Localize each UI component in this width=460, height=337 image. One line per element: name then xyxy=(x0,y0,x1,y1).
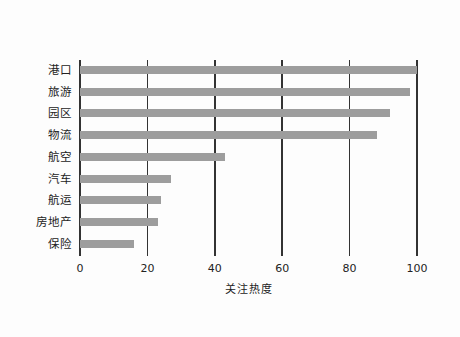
y-axis-label: 港口 xyxy=(20,63,72,77)
x-tick-label: 0 xyxy=(60,262,100,275)
y-axis-label: 航运 xyxy=(20,193,72,207)
x-tick-label: 60 xyxy=(262,262,302,275)
bar xyxy=(80,196,161,204)
bar xyxy=(80,88,410,96)
x-tick-label: 20 xyxy=(127,262,167,275)
y-axis-label: 房地产 xyxy=(20,215,72,229)
y-axis-label: 保险 xyxy=(20,237,72,251)
gridline-100 xyxy=(416,60,418,256)
bar xyxy=(80,66,417,74)
x-tick-label: 80 xyxy=(330,262,370,275)
bar xyxy=(80,131,377,139)
x-tick-label: 100 xyxy=(397,262,437,275)
y-axis-label: 旅游 xyxy=(20,85,72,99)
bar-chart: 港口旅游园区物流航空汽车航运房地产保险 020406080100 关注热度 xyxy=(0,0,460,337)
bar xyxy=(80,240,134,248)
x-axis-title: 关注热度 xyxy=(80,280,417,296)
x-tick-label: 40 xyxy=(195,262,235,275)
bar xyxy=(80,175,171,183)
bar xyxy=(80,109,390,117)
y-axis-label: 汽车 xyxy=(20,172,72,186)
plot-area xyxy=(80,60,417,256)
bar xyxy=(80,218,158,226)
y-axis-label: 物流 xyxy=(20,128,72,142)
bar xyxy=(80,153,225,161)
y-axis-label: 航空 xyxy=(20,150,72,164)
y-axis-label: 园区 xyxy=(20,106,72,120)
